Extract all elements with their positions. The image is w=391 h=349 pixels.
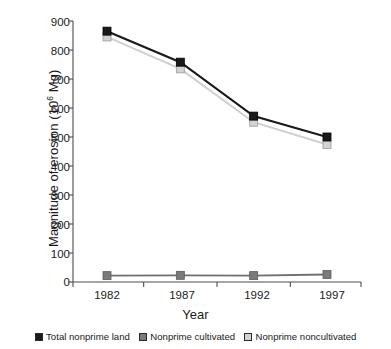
data-point-1997[interactable]	[323, 270, 331, 278]
legend-label-total-nonprime-land: Total nonprime land	[46, 331, 130, 342]
legend-label-nonprime-noncultivated: Nonprime noncultivated	[256, 331, 357, 342]
legend-label-nonprime-cultivated: Nonprime cultivated	[150, 331, 235, 342]
data-point-1992[interactable]	[250, 112, 258, 120]
legend-item-total-nonprime-land[interactable]: Total nonprime land	[35, 331, 130, 342]
legend-item-nonprime-noncultivated[interactable]: Nonprime noncultivated	[244, 331, 356, 342]
data-point-1997[interactable]	[323, 141, 331, 149]
x-axis-ticks	[73, 282, 361, 287]
axis-lines	[73, 21, 361, 282]
data-point-1982[interactable]	[103, 272, 111, 280]
series-line	[107, 31, 327, 137]
data-point-1997[interactable]	[323, 133, 331, 141]
legend-swatch-nonprime-noncultivated	[244, 333, 252, 341]
series-nonprime-noncultivated	[103, 33, 331, 149]
legend-item-nonprime-cultivated[interactable]: Nonprime cultivated	[139, 331, 235, 342]
data-point-1982[interactable]	[103, 27, 111, 35]
series-nonprime-cultivated	[103, 270, 331, 279]
chart-legend: Total nonprime land Nonprime cultivated …	[0, 331, 391, 342]
legend-swatch-total-nonprime-land	[35, 333, 43, 341]
erosion-line-chart: Magnitude of erosion (106 Mg) 900 800 70…	[0, 0, 391, 349]
y-axis-ticks	[68, 21, 73, 282]
series-line	[107, 274, 327, 275]
data-point-1992[interactable]	[250, 272, 258, 280]
legend-swatch-nonprime-cultivated	[139, 333, 147, 341]
data-point-1987[interactable]	[176, 58, 184, 66]
series-total-nonprime-land	[103, 27, 331, 141]
plot-area	[0, 0, 391, 349]
data-point-1987[interactable]	[176, 271, 184, 279]
data-series-layer	[103, 27, 331, 279]
